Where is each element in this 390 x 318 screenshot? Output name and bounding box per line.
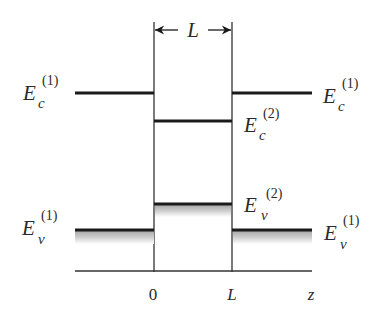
svg-text:v: v bbox=[261, 207, 268, 223]
svg-text:c: c bbox=[38, 95, 45, 111]
svg-text:(1): (1) bbox=[41, 208, 58, 224]
tick-zero: 0 bbox=[149, 285, 158, 304]
label-ev-left: E v (1) bbox=[21, 208, 58, 247]
ev-left-shading bbox=[75, 231, 154, 244]
band-diagram: L 0 L z E c (1) E c (1) E c (2) E v (2) … bbox=[0, 0, 390, 318]
svg-text:E: E bbox=[21, 216, 35, 240]
svg-text:E: E bbox=[323, 221, 337, 245]
svg-text:c: c bbox=[338, 98, 345, 114]
svg-text:c: c bbox=[259, 127, 266, 143]
label-ec-well: E c (2) bbox=[243, 106, 280, 143]
ev-well-shading bbox=[155, 205, 231, 217]
label-ec-left: E c (1) bbox=[22, 73, 59, 111]
svg-text:(2): (2) bbox=[266, 186, 283, 202]
svg-text:E: E bbox=[322, 84, 336, 108]
tick-l: L bbox=[226, 285, 236, 304]
z-axis-label: z bbox=[307, 285, 315, 304]
ev-right-shading bbox=[233, 231, 312, 244]
svg-text:(1): (1) bbox=[342, 76, 359, 92]
label-ev-right: E v (1) bbox=[323, 213, 360, 252]
label-ev-well: E v (2) bbox=[243, 186, 283, 223]
svg-text:(1): (1) bbox=[42, 73, 59, 89]
svg-text:E: E bbox=[22, 81, 36, 105]
width-dimension: L bbox=[155, 18, 231, 42]
svg-text:E: E bbox=[243, 193, 257, 217]
label-ec-right: E c (1) bbox=[322, 76, 359, 114]
svg-text:(2): (2) bbox=[263, 106, 280, 122]
width-label: L bbox=[186, 18, 199, 42]
svg-text:(1): (1) bbox=[343, 213, 360, 229]
svg-text:E: E bbox=[243, 113, 257, 137]
svg-text:v: v bbox=[340, 236, 347, 252]
svg-text:v: v bbox=[38, 231, 45, 247]
